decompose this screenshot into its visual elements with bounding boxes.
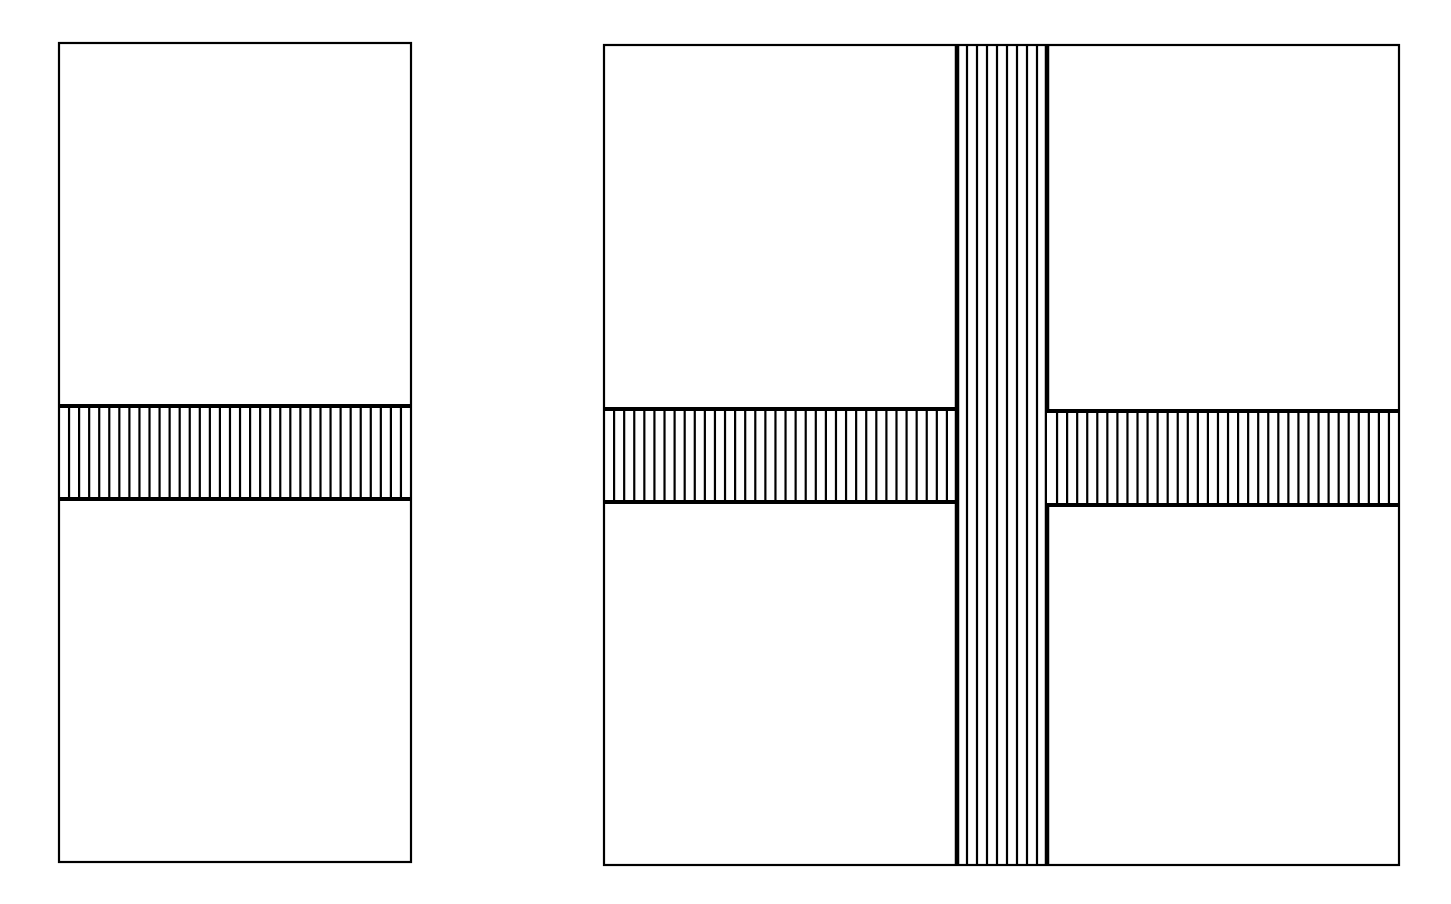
diagram-canvas [0,0,1451,904]
horizontal-hatched-band [59,406,411,499]
single-band-panel [59,43,411,862]
figures-group [59,43,1399,865]
horizontal-hatched-band [1047,411,1399,505]
vertical-hatched-band [957,45,1047,865]
cross-band-panel [604,45,1399,865]
horizontal-hatched-band [604,409,957,502]
